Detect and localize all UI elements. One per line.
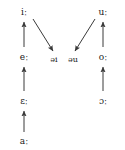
- vowel-label-long-epsilon: ɛː: [20, 97, 28, 106]
- diphthong-label-schwa-u: əu: [68, 56, 78, 64]
- vowel-label-long-open-o: ɔː: [99, 97, 107, 106]
- vowel-label-long-i: iː: [21, 8, 27, 17]
- vowel-label-long-o: oː: [99, 53, 107, 62]
- vowel-label-long-a: aː: [20, 137, 28, 146]
- vowel-label-long-u: uː: [99, 8, 108, 17]
- vowel-shift-diagram: iː eː ɛː aː uː oː ɔː əi əu: [0, 0, 125, 150]
- arrow-u-to-diphthong-au: [75, 19, 95, 51]
- arrow-layer: [0, 0, 125, 150]
- arrow-i-to-diphthong-ai: [33, 19, 53, 51]
- diphthong-label-schwa-i: əi: [50, 56, 57, 64]
- vowel-label-long-e: eː: [20, 53, 28, 62]
